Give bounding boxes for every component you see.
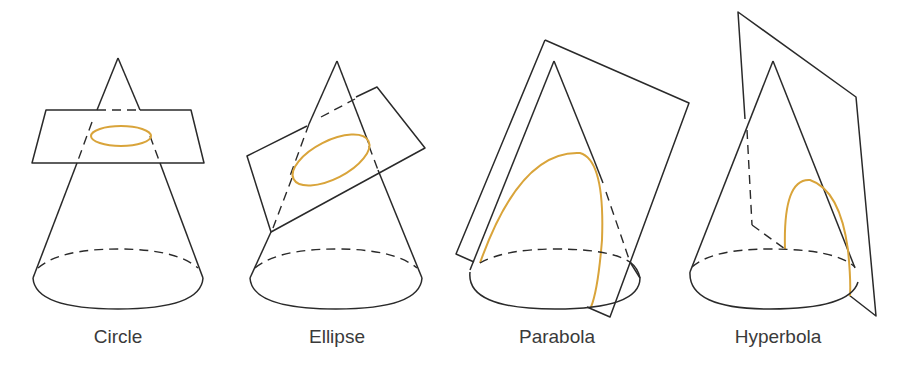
cone-right-hidden [606, 192, 630, 262]
parabola-section [480, 153, 602, 307]
cone-right-hidden [150, 136, 160, 163]
cone-left-lower [250, 232, 271, 278]
cone-left-hidden-top [290, 124, 309, 176]
hyperbola-section [785, 180, 850, 296]
cone-base-front [470, 262, 640, 309]
cone-base-back [38, 249, 198, 268]
ellipse-panel [247, 61, 425, 309]
conic-sections-diagram [0, 0, 911, 370]
cone-left-lower [33, 163, 77, 278]
plane-hidden-edge [321, 99, 355, 117]
cone-right-lower [160, 163, 203, 278]
cone-base-back [692, 249, 855, 267]
cone-base-front [250, 278, 422, 309]
cone-left-hidden [273, 178, 292, 228]
cone-right-edge [118, 58, 140, 110]
cone-right-edge [554, 61, 594, 160]
circle-panel [32, 58, 204, 309]
cone-base-front [690, 272, 858, 309]
cone-right-lower [378, 170, 422, 278]
plane-hidden-bottom [752, 225, 785, 249]
cutting-plane-left [456, 40, 545, 262]
plane-hidden-left [747, 130, 752, 225]
circle-section [91, 126, 151, 146]
cone-base-back [480, 249, 630, 263]
cone-left-edge [690, 61, 773, 272]
label-hyperbola: Hyperbola [698, 326, 858, 348]
cutting-plane [545, 40, 689, 317]
label-circle: Circle [38, 326, 198, 348]
label-ellipse: Ellipse [257, 326, 417, 348]
hyperbola-panel [690, 12, 876, 316]
cone-right-hidden [369, 146, 378, 170]
cone-left-hidden [77, 122, 92, 163]
ellipse-section [285, 124, 377, 196]
cutting-plane [32, 110, 204, 163]
cone-left-edge [97, 58, 118, 110]
cone-base-front [33, 278, 203, 309]
label-parabola: Parabola [477, 326, 637, 348]
cutting-plane [738, 12, 876, 316]
cone-base-back [255, 249, 417, 268]
parabola-panel [456, 40, 689, 317]
cone-right-lower [630, 262, 640, 278]
cone-left-edge [309, 61, 337, 124]
cone-right-edge [337, 61, 369, 144]
